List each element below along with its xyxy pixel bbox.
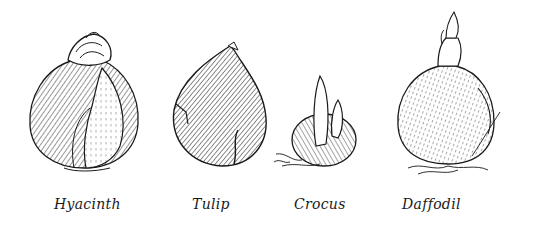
daffodil-bulb-drawing [388,8,508,183]
tulip-label: Tulip [192,196,230,212]
hyacinth-label: Hyacinth [54,196,121,212]
bulb-illustration: Hyacinth Tulip Crocus Daffodil [0,0,536,225]
daffodil-label: Daffodil [402,196,461,212]
hyacinth-bulb-drawing [24,28,144,173]
crocus-label: Crocus [294,196,346,212]
tulip-bulb-drawing [168,40,273,170]
crocus-bulb-drawing [272,72,367,172]
